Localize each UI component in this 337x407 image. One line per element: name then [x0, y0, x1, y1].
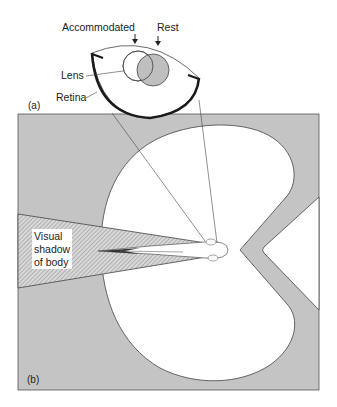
rest-arrow: [155, 36, 161, 46]
shadow-label-line-3: of body: [34, 256, 69, 268]
accommodated-label: Accommodated: [62, 21, 135, 33]
figure: Visual shadow of body (b): [0, 0, 337, 407]
shadow-label-line-2: shadow: [34, 243, 71, 255]
panel-b-label: (b): [27, 374, 39, 385]
lens-label: Lens: [61, 69, 84, 81]
accommodated-arrow: [132, 34, 138, 44]
retina-label: Retina: [56, 91, 87, 103]
fish-eye-bottom: [208, 255, 218, 261]
panel-a: Accommodated Rest Lens Retina (a): [28, 21, 199, 118]
panel-b: Visual shadow of body (b): [18, 100, 319, 390]
rest-label: Rest: [157, 21, 179, 33]
panel-a-label: (a): [28, 100, 40, 111]
shadow-label-line-1: Visual: [34, 230, 62, 242]
retina-leader: [86, 92, 97, 98]
lens-rest: [137, 54, 169, 86]
fish-eye-top: [206, 239, 216, 245]
